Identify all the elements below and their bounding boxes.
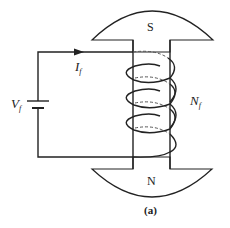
field-turns-symbol: N xyxy=(190,93,199,108)
field-current-subscript: f xyxy=(79,67,81,76)
south-pole-label: S xyxy=(147,21,154,33)
field-voltage-symbol: V xyxy=(11,96,19,111)
current-arrow-icon xyxy=(74,49,84,56)
figure-caption: (a) xyxy=(144,205,157,216)
field-turns-subscript: f xyxy=(199,101,201,110)
field-voltage-label: Vf xyxy=(11,97,21,110)
field-current-label: If xyxy=(75,60,82,73)
field-turns-label: Nf xyxy=(190,94,201,107)
field-voltage-subscript: f xyxy=(19,104,21,113)
bottom-wire xyxy=(38,108,133,157)
top-wire xyxy=(38,52,133,101)
north-pole-label: N xyxy=(147,175,156,187)
field-circuit-diagram xyxy=(0,0,230,228)
